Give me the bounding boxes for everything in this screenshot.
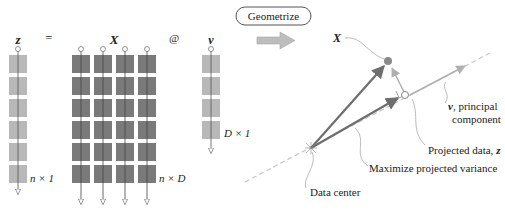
variance-callout-line — [355, 128, 368, 166]
equals-sign: = — [46, 31, 53, 45]
z-vector — [9, 47, 27, 190]
x-matrix-label: X — [109, 32, 119, 47]
geometrize-label: Geometrize — [248, 10, 299, 22]
data-center-label: Data center — [310, 186, 361, 198]
principal-component-label-line2: component — [452, 113, 501, 125]
pca-diagram: z = X @ v n × 1 n × D — [0, 0, 505, 212]
center-callout-line — [305, 152, 313, 188]
residual-arrow — [392, 68, 404, 92]
geometrize-arrow-icon — [257, 32, 295, 49]
x-callout-line — [345, 38, 384, 59]
z-shape-label: n × 1 — [30, 172, 54, 184]
geometry-x-label: X — [332, 31, 342, 45]
matmul-operator: @ — [169, 32, 179, 44]
v-vector — [202, 47, 220, 149]
geometrize-button[interactable]: Geometrize — [236, 7, 311, 25]
projected-data-label: Projected data, z — [428, 144, 501, 156]
x-shape-label: n × D — [159, 172, 185, 184]
v-shape-label: D × 1 — [223, 127, 250, 139]
z-label: z — [14, 32, 21, 47]
v-callout-line — [444, 82, 447, 103]
projected-callout-line — [412, 99, 425, 145]
data-vector-arrow — [311, 66, 384, 148]
principal-component-label: v, principal — [448, 100, 498, 112]
projection-vector-arrow — [311, 98, 398, 148]
maximize-variance-label: Maximize projected variance — [369, 162, 497, 174]
projected-point — [402, 92, 409, 99]
data-point — [384, 57, 392, 65]
v-vector-label: v — [208, 33, 214, 47]
data-center-marker — [305, 142, 317, 154]
x-matrix — [72, 47, 156, 200]
v-direction-arrow — [410, 66, 465, 95]
